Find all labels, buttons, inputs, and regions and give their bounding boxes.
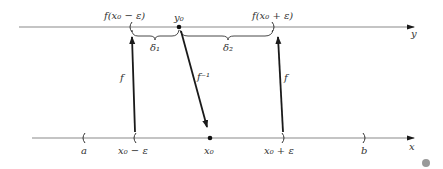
label-f-left: f bbox=[119, 72, 126, 83]
label-f-inverse: f⁻¹ bbox=[196, 71, 210, 82]
arrow-f-right bbox=[278, 37, 283, 132]
label-delta1: δ₁ bbox=[150, 42, 160, 53]
delta1-brace bbox=[132, 30, 179, 40]
label-delta2: δ₂ bbox=[223, 42, 233, 53]
label-f-x0-minus-eps: f(x₀ − ε) bbox=[103, 10, 145, 21]
label-x0: x₀ bbox=[204, 145, 214, 156]
label-f-right: f bbox=[283, 72, 290, 83]
label-x0-plus-eps: x₀ + ε bbox=[264, 145, 294, 156]
inverse-function-continuity-diagram: y f(x₀ − ε) y₀ f(x₀ + ε) δ₁ δ₂ x a x₀ − … bbox=[0, 0, 443, 169]
label-a: a bbox=[81, 145, 87, 156]
x-axis-label: x bbox=[409, 141, 415, 152]
label-y0: y₀ bbox=[173, 12, 184, 23]
gray-dot bbox=[422, 159, 430, 167]
y0-point bbox=[177, 25, 182, 30]
x-axis: x bbox=[32, 138, 415, 152]
label-f-x0-plus-eps: f(x₀ + ε) bbox=[251, 10, 293, 21]
arrow-f-left bbox=[132, 37, 135, 132]
label-x0-minus-eps: x₀ − ε bbox=[118, 145, 148, 156]
y-axis: y bbox=[19, 27, 417, 39]
y-axis-label: y bbox=[410, 28, 417, 39]
x0-point bbox=[208, 136, 213, 141]
delta2-brace bbox=[180, 30, 273, 40]
label-b: b bbox=[361, 145, 367, 156]
